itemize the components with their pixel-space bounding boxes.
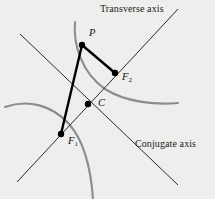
point-c-marker <box>85 101 91 107</box>
point-f2-marker <box>112 70 118 76</box>
figure-canvas <box>0 0 215 199</box>
point-p-label: P <box>89 27 95 38</box>
point-f2-label-subscript: 2 <box>129 76 133 84</box>
hyperbola-figure: Transverse axis Conjugate axis P F2 C F1 <box>0 0 215 199</box>
asymptote-descending-line <box>20 34 178 185</box>
point-f1-label-subscript: 1 <box>75 140 79 148</box>
asymptote-ascending-line <box>17 9 178 182</box>
point-f1-label: F1 <box>68 135 78 146</box>
transverse-axis-label: Transverse axis <box>100 3 164 14</box>
hyperbola-left-branch <box>5 104 93 199</box>
point-f2-label-base: F <box>122 71 128 82</box>
point-c-label: C <box>98 97 105 108</box>
point-f2-label: F2 <box>122 71 132 82</box>
focal-radius-p-f1 <box>61 45 82 134</box>
point-f1-marker <box>58 131 64 137</box>
point-f1-label-base: F <box>68 135 74 146</box>
point-p-marker <box>79 42 85 48</box>
conjugate-axis-label: Conjugate axis <box>135 138 196 149</box>
